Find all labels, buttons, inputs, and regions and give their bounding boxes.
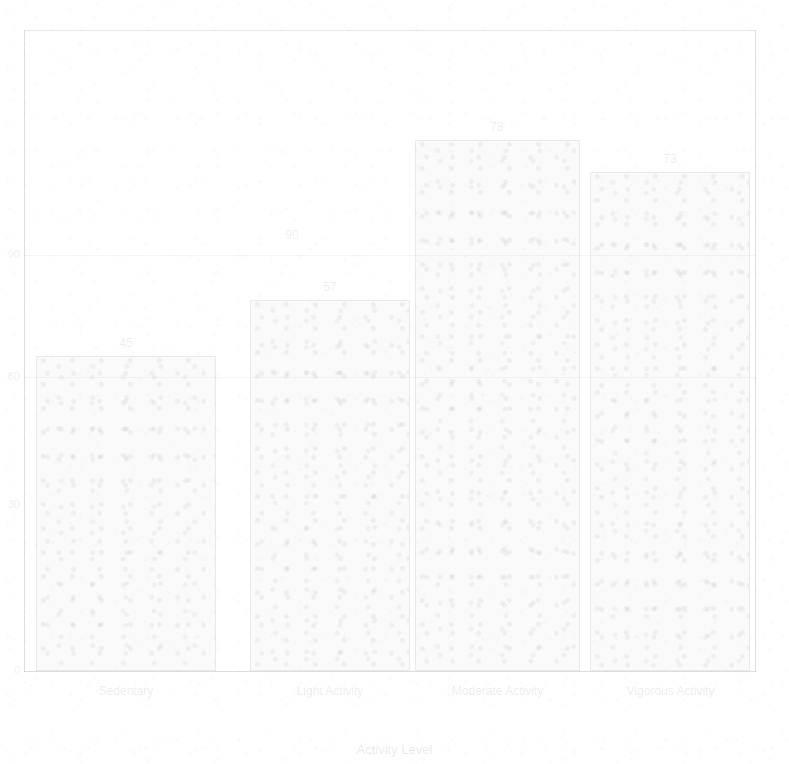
chart-canvas: 45 57 78 73 90 90 60 30 0 Sedentary Ligh… — [0, 0, 789, 764]
bar-1-value-label: 45 — [96, 336, 156, 350]
bar-3[interactable] — [415, 140, 580, 671]
x-axis-line — [24, 671, 756, 672]
y-tick-90: 90 — [0, 248, 20, 260]
x-tick-label-4: Vigorous Activity — [598, 684, 743, 699]
bar-4-value-label: 73 — [640, 152, 700, 166]
bar-2-value-label: 57 — [300, 280, 360, 294]
gridline-top — [24, 30, 756, 31]
bar-3-value-label: 78 — [467, 120, 527, 134]
bar-4[interactable] — [590, 172, 750, 671]
bar-2[interactable] — [250, 300, 410, 671]
bar-3-fill — [416, 141, 579, 670]
bar-2-fill — [251, 301, 409, 670]
y-tick-30: 30 — [0, 498, 20, 510]
bar-4-fill — [591, 173, 749, 670]
x-axis-title: Activity Level — [0, 742, 789, 757]
bar-1-fill — [37, 357, 215, 670]
gridline-90-annotation: 90 — [262, 228, 322, 242]
y-tick-60: 60 — [0, 370, 20, 382]
plot-right-spine — [755, 30, 756, 672]
x-tick-label-3: Moderate Activity — [425, 684, 570, 699]
bar-1[interactable] — [36, 356, 216, 671]
x-tick-label-1: Sedentary — [56, 684, 196, 699]
y-axis-line — [24, 30, 25, 672]
y-tick-0: 0 — [0, 664, 20, 676]
x-tick-label-2: Light Activity — [260, 684, 400, 699]
